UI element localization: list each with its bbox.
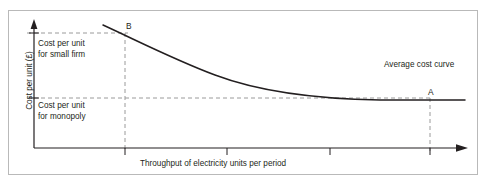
annotation-small-firm-cost: Cost per unit for small firm: [38, 39, 85, 60]
point-label-b: B: [126, 22, 132, 31]
plot-canvas: [0, 0, 490, 185]
average-cost-curve-figure: Cost per unit for small firm Cost per un…: [0, 0, 490, 185]
annotation-monopoly-cost: Cost per unit for monopoly: [38, 101, 86, 122]
annotation-average-cost-curve: Average cost curve: [384, 60, 454, 71]
x-axis-label: Throughput of electricity units per peri…: [140, 159, 286, 168]
y-axis-label: Cost per unit (£): [25, 36, 34, 126]
y-axis-arrow-icon: [31, 19, 38, 29]
x-axis-arrow-icon: [456, 144, 468, 152]
point-label-a: A: [428, 88, 434, 97]
